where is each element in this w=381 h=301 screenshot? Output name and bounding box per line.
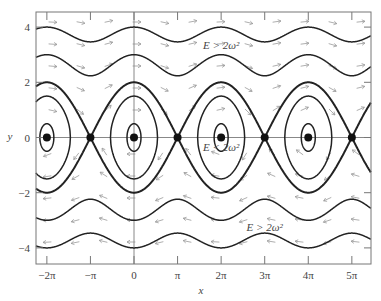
rotation-orbit-curve [36,199,371,220]
x-tick-label: 3π [259,269,271,281]
rotation-orbit-curve [36,233,371,248]
x-tick-label: 4π [303,269,315,281]
center-point [130,134,138,142]
axis-ticks: −2π−π0π2π3π4π5π420−2−4 [18,12,371,281]
x-tick-label: 0 [131,269,137,281]
center-point [304,134,312,142]
energy-annotation: E < 2ω² [202,141,240,153]
saddle-point [174,134,182,142]
energy-annotation: E > 2ω² [246,221,284,233]
x-tick-label: 2π [216,269,228,281]
y-tick-label: −2 [18,187,30,199]
x-tick-label: −π [85,269,97,281]
saddle-point [261,134,269,142]
x-tick-label: π [175,269,181,281]
x-axis-label: x [198,284,204,296]
saddle-point [86,134,94,142]
rotation-orbit-curve [36,55,371,76]
saddle-point [348,134,356,142]
y-tick-label: −4 [18,242,30,254]
energy-annotation: E > 2ω² [202,39,240,51]
y-tick-label: 2 [25,76,31,88]
center-point [43,134,51,142]
y-tick-label: 4 [25,21,31,33]
phase-portrait-svg: −2π−π0π2π3π4π5π420−2−4 E > 2ω²E < 2ω²E >… [0,0,381,301]
x-tick-label: 5π [346,269,358,281]
phase-portrait-figure: −2π−π0π2π3π4π5π420−2−4 E > 2ω²E < 2ω²E >… [0,0,381,301]
separatrix-curve [36,82,371,137]
y-axis-label: y [7,130,13,142]
x-tick-label: −2π [38,269,56,281]
y-tick-label: 0 [25,132,31,144]
direction-field-arrows [43,19,365,244]
